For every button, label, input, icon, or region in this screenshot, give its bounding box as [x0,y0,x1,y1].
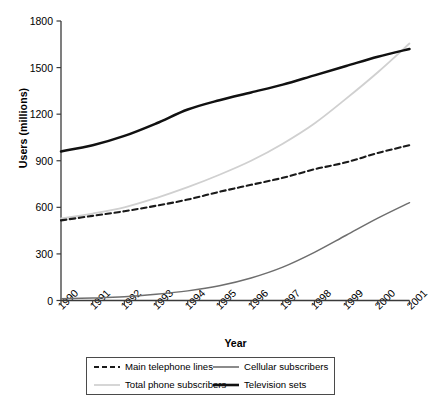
solid-lightgray-line-icon [94,380,120,390]
dashed-black-line-icon [94,362,120,372]
legend-item-total-phone-subscribers: Total phone subscribers [87,376,203,394]
legend-label: Main telephone lines [125,362,213,372]
solid-black-thick-line-icon [213,380,239,390]
series-line [61,203,410,299]
solid-gray-line-icon [213,362,239,372]
series-line [61,49,410,151]
legend-item-television-sets: Television sets [203,376,336,394]
legend-item-cellular-subscribers: Cellular subscribers [203,358,336,376]
legend-label: Television sets [244,380,306,390]
legend-label: Cellular subscribers [244,362,328,372]
series-line [61,44,410,219]
chart-legend: Main telephone lines Cellular subscriber… [86,357,335,395]
legend-item-main-telephone-lines: Main telephone lines [87,358,203,376]
